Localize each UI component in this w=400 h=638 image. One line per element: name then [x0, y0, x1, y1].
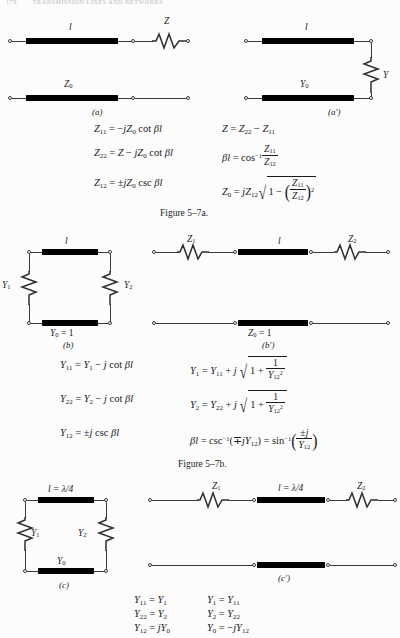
- label-text: l: [278, 236, 281, 246]
- terminal-dot: [386, 250, 390, 254]
- wire-segment: [248, 98, 262, 99]
- equation-z12: Z12=±jZ0 csc βl: [94, 178, 163, 189]
- transmission-line-block: [26, 38, 118, 44]
- label-text: Z: [164, 16, 169, 26]
- figure-caption-5-7b: Figure 5–7b.: [178, 459, 227, 469]
- subcaption-b: (b): [63, 340, 74, 350]
- wire-segment: [330, 500, 347, 501]
- equation-z: Z=Z22−Z11: [222, 124, 275, 135]
- transmission-line-block: [257, 562, 325, 568]
- equation-y2: Y2=Y22+j √1+1Y122: [190, 390, 287, 415]
- series-impedance-symbol-left: [177, 241, 209, 264]
- wire-segment: [118, 98, 132, 99]
- equation-y2-c: Y2=Y22: [207, 609, 240, 620]
- shunt-admittance-symbol-left: [18, 271, 42, 305]
- wire-segment-vertical: [25, 502, 26, 518]
- terminal-dot: [393, 498, 397, 502]
- label-shunt-admittance-right: Y2: [124, 280, 133, 290]
- figure-5-7c-panel-c: l = λ/4 Y1 Y2: [0, 484, 150, 592]
- label-line-length-top: l: [305, 22, 308, 32]
- wire-segment: [354, 98, 370, 99]
- label-line-length-top: l: [69, 22, 72, 32]
- figure-5-7a-panel-a: l Z Z0 (a): [0, 16, 200, 116]
- wire-segment: [27, 571, 38, 572]
- transmission-line-block: [262, 95, 354, 101]
- equation-y11-c: Y11=Y1: [134, 595, 167, 606]
- wire-segment-vertical: [29, 254, 30, 272]
- wire-segment: [313, 323, 387, 324]
- wire-segment: [152, 500, 198, 501]
- label-line-length-mid: l: [278, 236, 281, 246]
- equation-y12: Y12=±j csc βl: [60, 428, 119, 439]
- label-text: l: [69, 22, 72, 32]
- terminal-dot: [186, 96, 190, 100]
- equation-y22-c: Y22=Y2: [134, 609, 167, 620]
- series-impedance-symbol: [152, 30, 186, 54]
- wire-segment-vertical: [371, 43, 372, 58]
- wire-segment: [228, 500, 253, 501]
- figure-5-7c-panel-c-prime: Z1 l = λ/4 Z2 (c′): [150, 484, 400, 592]
- caption-text: Figure 5–7a.: [160, 208, 208, 218]
- terminal-dot: [104, 569, 108, 573]
- equation-y1: Y1=Y11+j √1+1Y122: [190, 356, 287, 381]
- label-characteristic-admittance: Y0: [300, 79, 309, 89]
- terminal-dot: [186, 39, 190, 43]
- label-series-impedance: Z: [164, 16, 169, 26]
- terminal-dot: [108, 321, 112, 325]
- figure-5-7b-panel-b: l Y1 Y2 Y0 =: [0, 236, 150, 344]
- label-text: l: [305, 22, 308, 32]
- label-text: l: [65, 236, 68, 246]
- terminal-dot: [393, 563, 397, 567]
- running-header: 170 TRANSMISSION LINES AND NETWORKS: [6, 0, 394, 6]
- wire-segment: [12, 98, 26, 99]
- equation-y22: Y22=Y2−j cot βl: [60, 394, 133, 405]
- label-shunt-admittance-left: Y1: [2, 280, 11, 290]
- equation-z11: Z11=−jZ0 cot βl: [94, 124, 162, 135]
- label-characteristic-admittance: Y0: [57, 556, 66, 566]
- equation-betal-csc: βl=csc−1(∓jY12)=sin−1(±jY12): [190, 428, 317, 451]
- wire-segment: [118, 41, 132, 42]
- wire-segment: [354, 41, 370, 42]
- equation-z22: Z22=Z−jZ0 cot βl: [94, 148, 173, 159]
- figure-5-7b-equations: Y11=Y1−j cot βl Y22=Y2−j cot βl Y12=±j c…: [0, 350, 400, 450]
- label-characteristic-impedance: Z0: [64, 79, 73, 89]
- running-title: TRANSMISSION LINES AND NETWORKS: [33, 0, 163, 5]
- wire-segment: [156, 252, 178, 253]
- wire-segment: [135, 98, 186, 99]
- figure-5-7c-equations: Y11=Y1 Y22=Y2 Y12=jY0 Y1=Y11 Y2=Y22 Y0=−…: [0, 594, 400, 638]
- series-impedance-symbol-left: [197, 489, 229, 512]
- wire-segment: [27, 500, 38, 501]
- wire-segment: [12, 41, 26, 42]
- wire-segment: [31, 252, 42, 253]
- equation-y1-c: Y1=Y11: [207, 595, 240, 606]
- label-shunt-admittance: Y: [383, 70, 388, 80]
- wire-segment-vertical: [106, 550, 107, 571]
- wire-segment: [31, 323, 42, 324]
- label-text: Y: [383, 70, 388, 80]
- subcaption-a: (a): [92, 107, 103, 117]
- figure-5-7a-equations: Z11=−jZ0 cot βl Z22=Z−jZ0 cot βl Z12=±jZ…: [0, 118, 400, 204]
- transmission-line-block: [42, 320, 98, 326]
- terminal-dot: [386, 321, 390, 325]
- transmission-line-block: [38, 568, 94, 574]
- wire-segment-vertical: [110, 254, 111, 272]
- wire-segment: [156, 323, 234, 324]
- equation-y12-c: Y12=jY0: [134, 623, 170, 634]
- figure-caption-5-7a: Figure 5–7a.: [160, 208, 208, 218]
- shunt-admittance-symbol: [360, 57, 384, 93]
- shunt-admittance-symbol-right: [95, 517, 119, 551]
- equation-betal-cos: βl=cos−1Z11Z12: [222, 144, 278, 168]
- label-quarter-wave-mid: l = λ/4: [278, 483, 303, 493]
- wire-segment: [365, 252, 387, 253]
- wire-segment: [377, 500, 394, 501]
- wire-segment: [313, 252, 335, 253]
- wire-segment-vertical: [106, 502, 107, 518]
- equation-y0-c: Y0=−jY12: [207, 623, 249, 634]
- label-shunt-admittance-left: Y1: [31, 528, 40, 538]
- transmission-line-block: [26, 95, 118, 101]
- terminal-dot: [252, 563, 256, 567]
- terminal-dot: [252, 498, 256, 502]
- caption-text: Figure 5–7b.: [178, 459, 227, 469]
- transmission-line-block: [262, 38, 354, 44]
- series-impedance-symbol-right: [346, 489, 378, 512]
